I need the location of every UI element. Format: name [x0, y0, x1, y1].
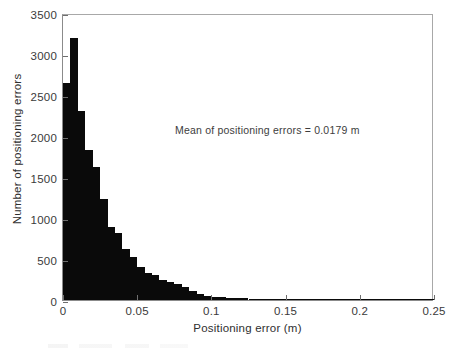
- y-axis-tick: [63, 261, 68, 262]
- histogram-bar: [234, 298, 241, 300]
- histogram-bar: [115, 233, 122, 300]
- y-axis-tick-label: 2000: [31, 132, 57, 144]
- histogram-bar: [70, 38, 77, 300]
- y-axis-title: Number of positioning errors: [11, 49, 23, 249]
- x-axis-tick-label: 0.25: [422, 305, 445, 317]
- x-axis-tick-label: 0: [60, 305, 67, 317]
- histogram-bar: [130, 257, 137, 300]
- y-axis-tick: [63, 56, 68, 57]
- x-axis-tick: [63, 295, 64, 300]
- x-axis-tick-label: 0.05: [126, 305, 149, 317]
- x-axis-tick: [286, 295, 287, 300]
- histogram-bar: [382, 299, 389, 300]
- histogram-bar: [389, 299, 396, 300]
- histogram-bar: [226, 298, 233, 300]
- histogram-bar: [360, 299, 367, 300]
- y-axis-tick: [63, 138, 68, 139]
- y-axis-tick: [63, 220, 68, 221]
- histogram-bar: [323, 299, 330, 300]
- histogram-figure: 0500100015002000250030003500 00.050.10.1…: [0, 0, 453, 355]
- x-axis-title: Positioning error (m): [62, 322, 433, 334]
- y-axis-tick-label: 500: [37, 255, 57, 267]
- histogram-bar: [256, 299, 263, 300]
- histogram-bar: [427, 299, 434, 300]
- histogram-bar: [100, 199, 107, 300]
- x-axis-tick-label: 0.1: [203, 305, 220, 317]
- histogram-bar: [352, 299, 359, 300]
- histogram-bar: [286, 299, 293, 300]
- x-axis-tick-label: 0.15: [274, 305, 297, 317]
- histogram-bar: [315, 299, 322, 300]
- histogram-bar: [137, 267, 144, 300]
- histogram-bar: [330, 299, 337, 300]
- y-axis-tick-label: 2500: [31, 91, 57, 103]
- histogram-bar: [338, 299, 345, 300]
- histogram-bar: [308, 299, 315, 300]
- histogram-bar: [197, 294, 204, 300]
- histogram-bar: [152, 275, 159, 300]
- histogram-bar: [93, 167, 100, 300]
- histogram-bar: [63, 83, 70, 300]
- histogram-bar: [278, 299, 285, 300]
- histogram-bar: [412, 299, 419, 300]
- histogram-bar: [174, 284, 181, 300]
- x-axis-tick: [211, 295, 212, 300]
- plot-area: 0500100015002000250030003500 00.050.10.1…: [62, 14, 433, 301]
- histogram-bar: [204, 296, 211, 301]
- mean-annotation-text: Mean of positioning errors = 0.0179 m: [175, 124, 360, 136]
- y-axis-tick: [63, 97, 68, 98]
- histogram-bar: [85, 150, 92, 300]
- y-axis-tick: [63, 302, 68, 303]
- histogram-bar: [159, 280, 166, 301]
- histogram-bar: [419, 299, 426, 300]
- histogram-bar: [122, 249, 129, 300]
- histogram-bar: [145, 273, 152, 300]
- y-axis-tick: [63, 179, 68, 180]
- y-axis-tick-label: 3500: [31, 9, 57, 21]
- histogram-bar: [345, 299, 352, 300]
- y-axis-tick-label: 0: [50, 296, 57, 308]
- x-axis-tick-label: 0.2: [352, 305, 369, 317]
- histogram-bar: [367, 299, 374, 300]
- y-axis-tick-label: 1500: [31, 173, 57, 185]
- x-axis-tick: [434, 295, 435, 300]
- histogram-bar: [167, 282, 174, 300]
- y-axis-tick: [63, 15, 68, 16]
- histogram-bar: [182, 287, 189, 300]
- histogram-bar: [263, 299, 270, 300]
- histogram-bar: [241, 298, 248, 300]
- histogram-bar: [219, 297, 226, 300]
- histogram-bar: [189, 291, 196, 300]
- histogram-bar: [293, 299, 300, 300]
- y-axis-tick-label: 1000: [31, 214, 57, 226]
- histogram-bar: [300, 299, 307, 300]
- y-axis-tick-label: 3000: [31, 50, 57, 62]
- histogram-bar: [271, 299, 278, 300]
- scan-artifact: [48, 344, 188, 348]
- histogram-bar: [108, 227, 115, 300]
- histogram-bar: [249, 299, 256, 300]
- x-axis-tick: [137, 295, 138, 300]
- histogram-bars: [63, 15, 432, 300]
- histogram-bar: [78, 111, 85, 300]
- x-axis-tick: [360, 295, 361, 300]
- histogram-bar: [375, 299, 382, 300]
- histogram-bar: [404, 299, 411, 300]
- histogram-bar: [397, 299, 404, 300]
- histogram-bar: [211, 297, 218, 300]
